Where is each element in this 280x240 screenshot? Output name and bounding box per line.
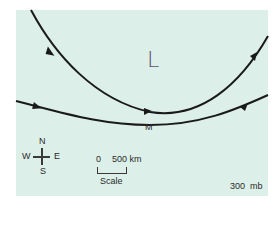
compass-rose: N W E S <box>22 137 62 177</box>
scale-start: 0 <box>96 155 101 164</box>
scale-bar-line <box>97 167 127 174</box>
compass-north: N <box>39 137 46 146</box>
point-m-label: M <box>145 123 153 132</box>
scale-end: 500 km <box>112 155 142 164</box>
scale-bar: 0 500 km Scale <box>94 155 164 191</box>
compass-cross-icon <box>41 148 43 165</box>
compass-west: W <box>22 152 31 161</box>
scale-title: Scale <box>100 177 123 186</box>
compass-east: E <box>54 152 60 161</box>
arrow-icon <box>144 108 152 115</box>
arrow-icon <box>240 103 248 111</box>
pressure-level-label: 300 mb <box>230 182 263 191</box>
low-pressure-label: L <box>147 47 159 72</box>
compass-south: S <box>40 167 46 176</box>
